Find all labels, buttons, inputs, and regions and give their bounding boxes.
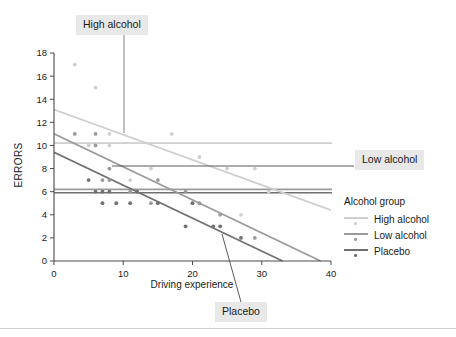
point-placebo xyxy=(87,178,91,182)
point-low-alcohol xyxy=(218,213,222,217)
point-placebo xyxy=(211,224,215,228)
callout-leader-lines xyxy=(112,35,354,302)
fit-line-low-alcohol xyxy=(54,134,321,261)
point-high-alcohol xyxy=(128,178,132,182)
figure-container: 024681012141618 010203040 ERRORS Driving… xyxy=(0,0,456,337)
point-low-alcohol xyxy=(156,178,160,182)
point-placebo xyxy=(184,224,188,228)
callout-high-alcohol: High alcohol xyxy=(76,15,148,35)
axes: 024681012141618 010203040 xyxy=(36,47,336,279)
point-high-alcohol xyxy=(149,167,153,171)
legend-item-low-alcohol: Low alcohol xyxy=(344,228,427,243)
point-low-alcohol xyxy=(253,236,257,240)
legend-label-placebo: Placebo xyxy=(374,246,410,257)
point-low-alcohol xyxy=(184,190,188,194)
point-high-alcohol xyxy=(267,190,271,194)
point-high-alcohol xyxy=(253,167,257,171)
x-tick-label: 30 xyxy=(256,268,267,279)
y-tick-label: 8 xyxy=(42,163,47,174)
point-placebo xyxy=(101,201,105,205)
point-high-alcohol xyxy=(108,132,112,136)
point-low-alcohol xyxy=(94,132,98,136)
point-low-alcohol xyxy=(128,190,132,194)
x-axis-ticks: 010203040 xyxy=(51,261,336,279)
point-low-alcohol xyxy=(149,201,153,205)
scatter-points xyxy=(73,63,271,240)
fit-line-placebo xyxy=(54,152,283,261)
x-tick-label: 20 xyxy=(187,268,198,279)
legend-label-high-alcohol: High alcohol xyxy=(374,214,429,225)
y-tick-label: 2 xyxy=(42,232,47,243)
x-tick-label: 0 xyxy=(51,268,56,279)
y-tick-label: 18 xyxy=(36,47,47,58)
point-low-alcohol xyxy=(73,132,77,136)
point-low-alcohol xyxy=(198,201,202,205)
x-tick-label: 10 xyxy=(118,268,129,279)
placebo-leader xyxy=(222,234,241,302)
legend-swatch-high-alcohol xyxy=(344,214,368,225)
point-placebo xyxy=(114,201,118,205)
callout-low-alcohol: Low alcohol xyxy=(355,150,424,170)
point-placebo xyxy=(101,190,105,194)
point-low-alcohol xyxy=(108,167,112,171)
point-high-alcohol xyxy=(108,144,112,148)
point-low-alcohol xyxy=(108,178,112,182)
point-high-alcohol xyxy=(73,63,77,67)
fit-line-high-alcohol xyxy=(54,110,331,211)
point-placebo xyxy=(94,190,98,194)
point-high-alcohol xyxy=(170,132,174,136)
point-high-alcohol xyxy=(94,86,98,90)
y-tick-label: 4 xyxy=(42,209,47,220)
point-low-alcohol xyxy=(101,178,105,182)
point-high-alcohol xyxy=(87,144,91,148)
y-tick-label: 10 xyxy=(36,140,47,151)
point-low-alcohol xyxy=(94,144,98,148)
callout-placebo: Placebo xyxy=(215,302,267,322)
legend-swatch-placebo xyxy=(344,246,368,257)
point-placebo xyxy=(239,236,243,240)
x-axis-title: Driving experience xyxy=(151,279,234,290)
footer-divider xyxy=(0,328,456,329)
point-placebo xyxy=(135,190,139,194)
y-tick-label: 14 xyxy=(36,94,47,105)
legend-label-low-alcohol: Low alcohol xyxy=(374,230,427,241)
legend-title: Alcohol group xyxy=(344,196,405,207)
y-axis-ticks: 024681012141618 xyxy=(36,47,54,266)
point-high-alcohol xyxy=(225,167,229,171)
reference-lines xyxy=(54,143,332,193)
point-placebo xyxy=(108,190,112,194)
point-placebo xyxy=(218,224,222,228)
x-tick-label: 40 xyxy=(326,268,337,279)
point-high-alcohol xyxy=(198,155,202,159)
y-tick-label: 16 xyxy=(36,71,47,82)
point-placebo xyxy=(156,201,160,205)
point-placebo xyxy=(128,201,132,205)
y-tick-label: 12 xyxy=(36,117,47,128)
legend-swatch-low-alcohol xyxy=(344,230,368,241)
legend-item-high-alcohol: High alcohol xyxy=(344,212,429,227)
y-tick-label: 0 xyxy=(42,255,47,266)
y-axis-title: ERRORS xyxy=(13,142,24,187)
y-tick-label: 6 xyxy=(42,186,47,197)
point-placebo xyxy=(191,201,195,205)
point-high-alcohol xyxy=(239,213,243,217)
legend-item-placebo: Placebo xyxy=(344,244,410,259)
